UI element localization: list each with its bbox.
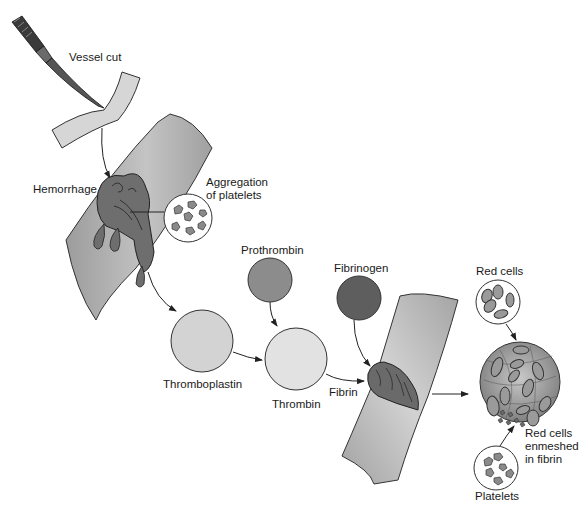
label-fibrinogen: Fibrinogen xyxy=(334,262,388,275)
platelets-inset xyxy=(474,446,518,490)
arrow-fibrinogen-to-fibrin xyxy=(354,320,370,366)
label-aggregation-line2: of platelets xyxy=(206,189,262,202)
platelet-aggregation-inset xyxy=(164,194,212,242)
label-vessel-cut: Vessel cut xyxy=(69,51,121,64)
label-red-cells: Red cells xyxy=(476,265,523,278)
prothrombin-circle xyxy=(248,258,292,302)
red-cells-inset xyxy=(476,280,520,324)
arrow-platelets-to-enmeshed xyxy=(500,426,514,446)
red-cells-enmeshed-in-fibrin xyxy=(480,342,560,427)
cut-vessel xyxy=(52,72,140,148)
arrow-thrombin-to-fibrin xyxy=(326,374,364,381)
arrow-thromboplastin-to-thrombin xyxy=(233,352,262,360)
label-thromboplastin: Thromboplastin xyxy=(163,378,242,391)
arrow-prothrombin-to-thrombin xyxy=(270,302,277,326)
label-enmeshed-line1: Red cells xyxy=(525,427,572,440)
label-hemorrhage: Hemorrhage xyxy=(33,183,97,196)
label-aggregation-line1: Aggregation xyxy=(206,176,268,189)
label-thrombin: Thrombin xyxy=(272,398,321,411)
fibrinogen-circle xyxy=(337,276,381,320)
label-enmeshed-line3: in fibrin xyxy=(525,453,562,466)
label-enmeshed-line2: enmeshed xyxy=(525,440,579,453)
thromboplastin-circle xyxy=(171,310,233,372)
thrombin-circle xyxy=(265,328,327,390)
arrow-hemorrhage-to-thromboplastin xyxy=(148,272,176,311)
label-fibrin: Fibrin xyxy=(329,386,358,399)
clotting-diagram: Vessel cut Hemorrhage Aggregation of pla… xyxy=(0,0,584,510)
arrow-cut-to-hemorrhage xyxy=(102,128,110,178)
label-platelets: Platelets xyxy=(475,490,519,503)
arrow-red-cells-to-enmeshed xyxy=(506,324,516,340)
label-prothrombin: Prothrombin xyxy=(241,244,304,257)
